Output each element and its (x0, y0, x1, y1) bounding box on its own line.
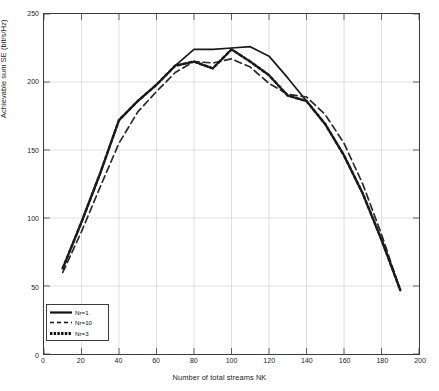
x-axis-label: Number of total streams NK (0, 373, 439, 382)
x-tick-label: 0 (41, 357, 45, 364)
legend-label-0: Nr=1 (75, 308, 89, 317)
legend-swatch-dashed (50, 318, 72, 327)
legend-swatch-solid (50, 308, 72, 317)
x-tick-label: 200 (414, 357, 426, 364)
series-line-1 (63, 59, 401, 290)
legend[interactable]: Nr=1 Nr=10 Nr=3 (46, 304, 109, 341)
legend-label-2: Nr=3 (75, 329, 89, 338)
data-series-layer (44, 14, 419, 354)
y-axis-ticks: 050100150200250 (0, 13, 39, 355)
series-line-2 (63, 49, 401, 290)
legend-label-1: Nr=10 (75, 318, 92, 327)
x-axis-ticks: 020406080100120140160180200 (43, 356, 420, 370)
x-tick-label: 80 (190, 357, 198, 364)
y-tick-label: 250 (5, 10, 39, 17)
x-tick-label: 180 (376, 357, 388, 364)
y-tick-label: 150 (5, 146, 39, 153)
x-tick-label: 20 (77, 357, 85, 364)
legend-item-0: Nr=1 (50, 307, 106, 318)
figure: Achievable sum SE (bit/s/Hz) 05010015020… (0, 0, 439, 391)
x-tick-label: 120 (263, 357, 275, 364)
legend-item-1: Nr=10 (50, 318, 106, 329)
y-tick-label: 100 (5, 215, 39, 222)
y-tick-label: 0 (5, 352, 39, 359)
x-tick-label: 140 (301, 357, 313, 364)
legend-item-2: Nr=3 (50, 328, 106, 339)
x-tick-label: 40 (114, 357, 122, 364)
x-tick-label: 100 (226, 357, 238, 364)
y-tick-label: 50 (5, 283, 39, 290)
y-tick-label: 200 (5, 78, 39, 85)
x-tick-label: 160 (339, 357, 351, 364)
legend-swatch-dotted (50, 329, 72, 338)
x-tick-label: 60 (152, 357, 160, 364)
